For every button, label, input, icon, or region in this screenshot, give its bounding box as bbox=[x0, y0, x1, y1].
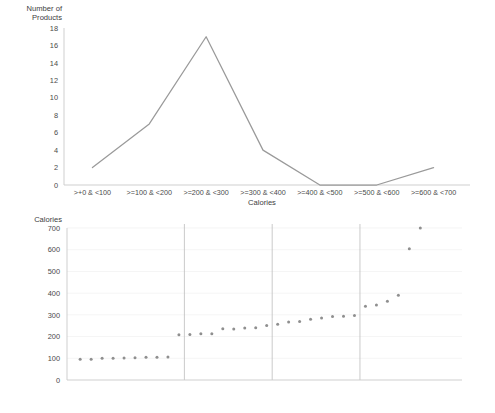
scatter-chart-point-0 bbox=[79, 358, 82, 361]
line-chart-y-tick-label-2: 4 bbox=[54, 146, 58, 155]
line-chart-y-tick-label-4: 8 bbox=[54, 111, 58, 120]
scatter-chart-y-tick-group: 0100200300400500600700 bbox=[48, 224, 60, 385]
scatter-chart-point-16 bbox=[254, 326, 257, 329]
scatter-chart-point-23 bbox=[331, 315, 334, 318]
scatter-chart-gridline-group bbox=[67, 228, 462, 358]
scatter-chart-y-axis-title: Calories bbox=[34, 215, 62, 224]
scatter-chart-point-24 bbox=[342, 315, 345, 318]
scatter-chart-panel: Calories 0100200300400500600700 bbox=[0, 208, 495, 413]
scatter-chart-point-5 bbox=[134, 356, 137, 359]
scatter-chart-point-17 bbox=[265, 324, 268, 327]
line-chart-category-label-6: >=600 & <700 bbox=[411, 188, 456, 197]
scatter-chart-point-1 bbox=[90, 358, 93, 361]
line-chart-category-label-4: >=400 & <500 bbox=[297, 188, 342, 197]
scatter-chart-point-28 bbox=[386, 300, 389, 303]
line-chart-category-label-2: >=200 & <300 bbox=[183, 188, 228, 197]
line-chart-svg: Number of Products 024681012141618 >+0 &… bbox=[0, 0, 495, 208]
scatter-chart-point-29 bbox=[397, 294, 400, 297]
scatter-chart-point-9 bbox=[177, 333, 180, 336]
line-chart-category-label-1: >=100 & <200 bbox=[127, 188, 172, 197]
scatter-chart-y-tick-label-0: 0 bbox=[56, 376, 60, 385]
line-chart-y-axis-title-line1: Number of bbox=[27, 4, 63, 13]
scatter-chart-point-15 bbox=[243, 326, 246, 329]
line-chart-category-label-3: >=300 & <400 bbox=[240, 188, 285, 197]
scatter-chart-y-tick-label-6: 600 bbox=[48, 245, 60, 254]
scatter-chart-point-25 bbox=[353, 314, 356, 317]
scatter-chart-point-19 bbox=[287, 321, 290, 324]
line-chart-y-tick-label-0: 0 bbox=[54, 181, 58, 190]
line-chart-y-tick-label-8: 16 bbox=[50, 41, 58, 50]
scatter-chart-y-tick-label-2: 200 bbox=[48, 332, 60, 341]
scatter-chart-point-20 bbox=[298, 320, 301, 323]
line-chart-panel: Number of Products 024681012141618 >+0 &… bbox=[0, 0, 495, 208]
scatter-chart-divider-group bbox=[184, 224, 360, 380]
line-chart-category-label-0: >+0 & <100 bbox=[74, 188, 111, 197]
scatter-chart-point-2 bbox=[101, 357, 104, 360]
scatter-chart-point-4 bbox=[123, 357, 126, 360]
scatter-chart-y-tick-label-7: 700 bbox=[48, 224, 60, 233]
scatter-chart-point-8 bbox=[166, 355, 169, 358]
scatter-chart-point-6 bbox=[145, 356, 148, 359]
scatter-chart-y-tick-label-4: 400 bbox=[48, 289, 60, 298]
scatter-chart-point-11 bbox=[199, 332, 202, 335]
line-chart-y-tick-label-1: 2 bbox=[54, 163, 58, 172]
scatter-chart-y-tick-label-3: 300 bbox=[48, 311, 60, 320]
scatter-chart-point-7 bbox=[155, 356, 158, 359]
scatter-chart-point-27 bbox=[375, 304, 378, 307]
scatter-chart-point-21 bbox=[309, 318, 312, 321]
line-chart-series bbox=[92, 37, 433, 185]
scatter-chart-point-26 bbox=[364, 305, 367, 308]
scatter-chart-point-18 bbox=[276, 323, 279, 326]
scatter-chart-point-group bbox=[79, 227, 422, 361]
line-chart-category-label-5: >=500 & <600 bbox=[354, 188, 399, 197]
scatter-chart-point-31 bbox=[419, 227, 422, 230]
scatter-chart-y-tick-label-5: 500 bbox=[48, 267, 60, 276]
line-chart-y-tick-label-9: 18 bbox=[50, 24, 58, 33]
scatter-chart-point-12 bbox=[210, 332, 213, 335]
scatter-chart-point-3 bbox=[112, 357, 115, 360]
scatter-chart-point-13 bbox=[221, 327, 224, 330]
scatter-chart-point-14 bbox=[232, 327, 235, 330]
scatter-chart-point-22 bbox=[320, 316, 323, 319]
line-chart-y-axis-title-line2: Products bbox=[32, 13, 62, 22]
line-chart-category-label-group: >+0 & <100>=100 & <200>=200 & <300>=300 … bbox=[74, 188, 457, 197]
line-chart-y-tick-label-3: 6 bbox=[54, 128, 58, 137]
scatter-chart-svg: Calories 0100200300400500600700 bbox=[0, 208, 495, 413]
scatter-chart-y-tick-label-1: 100 bbox=[48, 354, 60, 363]
charts-page: Number of Products 024681012141618 >+0 &… bbox=[0, 0, 495, 413]
line-chart-x-axis-title: Calories bbox=[248, 198, 276, 207]
scatter-chart-point-10 bbox=[188, 333, 191, 336]
line-chart-y-tick-group: 024681012141618 bbox=[50, 24, 58, 190]
line-chart-y-tick-label-5: 10 bbox=[50, 93, 58, 102]
line-chart-y-tick-label-6: 12 bbox=[50, 76, 58, 85]
line-chart-y-tick-label-7: 14 bbox=[50, 59, 58, 68]
scatter-chart-point-30 bbox=[408, 247, 411, 250]
